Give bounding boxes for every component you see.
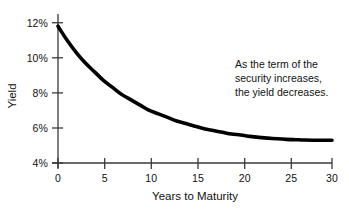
y-axis-label: Yield <box>6 73 18 119</box>
annotation-line-2: security increases, <box>235 71 347 85</box>
y-tick-label-4: 4% <box>18 157 48 169</box>
y-tick-label-10: 10% <box>12 52 48 64</box>
x-tick-label-5: 5 <box>102 172 108 184</box>
x-tick-label-0: 0 <box>55 172 61 184</box>
plot-area <box>0 0 349 218</box>
x-tick-label-25: 25 <box>285 172 297 184</box>
y-tick-label-12: 12% <box>18 17 48 29</box>
x-tick-label-10: 10 <box>145 172 157 184</box>
x-tick-label-30: 30 <box>326 172 338 184</box>
x-axis-label: Years to Maturity <box>58 190 332 202</box>
yield-curve-chart: 12% 10% 8% 6% 4% 0 5 10 15 20 25 30 Yiel… <box>0 0 349 218</box>
chart-annotation: As the term of the security increases, t… <box>235 57 347 100</box>
x-tick-label-15: 15 <box>192 172 204 184</box>
annotation-line-3: the yield decreases. <box>235 85 347 99</box>
y-tick-label-8: 8% <box>18 87 48 99</box>
annotation-line-1: As the term of the <box>235 57 347 71</box>
x-tick-label-20: 20 <box>239 172 251 184</box>
y-tick-label-6: 6% <box>18 122 48 134</box>
